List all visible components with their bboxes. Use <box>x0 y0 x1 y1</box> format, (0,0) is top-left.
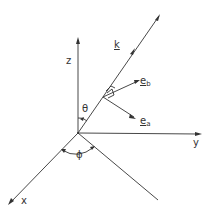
y-axis-line <box>78 133 199 134</box>
origin-point <box>77 132 79 134</box>
z-axis-label: z <box>66 56 71 66</box>
e-a-subscript: a <box>146 120 150 128</box>
y-arrow-icon <box>195 132 202 136</box>
e-a-label: ea <box>140 116 150 126</box>
k-vector-label: k <box>114 40 120 50</box>
x-axis-label: x <box>21 196 27 206</box>
theta-label: θ <box>82 104 88 114</box>
y-axis-label: y <box>193 138 199 148</box>
x-arrow-icon <box>8 198 14 205</box>
x-axis-line <box>10 133 78 203</box>
coordinate-diagram <box>0 0 215 217</box>
z-arrow-icon <box>76 37 80 44</box>
phi-label: ϕ <box>76 150 83 160</box>
k-tip-arrow-icon <box>155 14 160 21</box>
e-b-label: eb <box>140 76 151 86</box>
phi-arc-arrow-left-icon <box>61 149 66 153</box>
e-a-arrow-icon <box>129 114 136 119</box>
projection-line <box>78 133 158 200</box>
e-b-subscript: b <box>146 80 150 88</box>
e-a-vector-line <box>103 97 134 117</box>
